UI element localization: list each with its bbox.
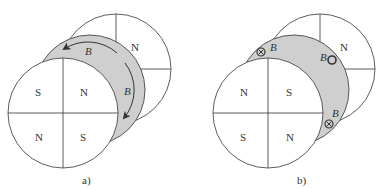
front-disc: S N N S: [8, 58, 118, 168]
quadrant-label: N: [286, 131, 294, 143]
flux-label: B: [85, 45, 92, 57]
front-disc: N S S N: [213, 58, 323, 168]
flux-label: B: [332, 107, 339, 119]
flux-label: B: [320, 51, 327, 63]
figure-b: N B B B N S S N b): [213, 14, 375, 187]
back-disc-label: N: [340, 41, 348, 53]
quadrant-label: N: [80, 86, 88, 98]
flux-label: B: [124, 85, 131, 97]
quadrant-label: S: [286, 86, 292, 98]
back-disc-label: N: [131, 41, 139, 53]
flux-label: B: [270, 41, 277, 53]
quadrant-label: N: [240, 86, 248, 98]
quadrant-label: S: [80, 131, 86, 143]
quadrant-label: S: [240, 131, 246, 143]
figure-a: N B B S N N S a): [8, 14, 171, 187]
quadrant-label: S: [35, 86, 41, 98]
figure-caption: b): [297, 174, 307, 187]
figure-caption: a): [82, 174, 91, 187]
quadrant-label: N: [35, 131, 43, 143]
